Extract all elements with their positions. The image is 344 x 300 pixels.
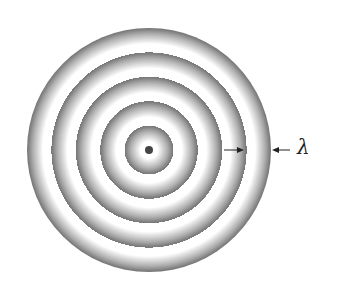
wavelength-label: λ (297, 137, 310, 157)
point-source-dot (145, 146, 153, 154)
arrow-left-pointing-icon (272, 147, 279, 153)
wavefront-diagram (0, 0, 344, 300)
